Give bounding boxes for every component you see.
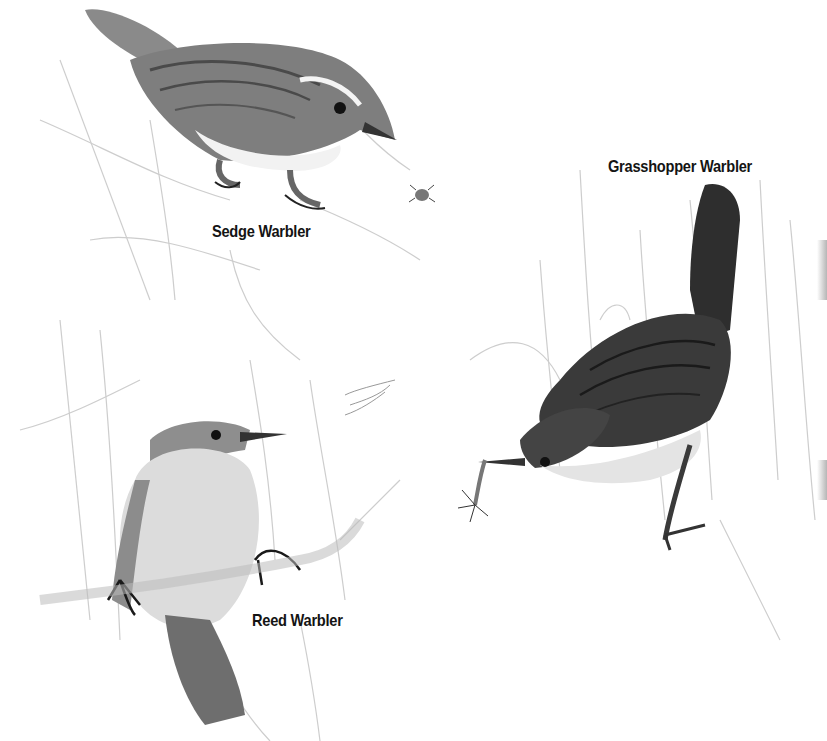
page-edge-shadow (817, 240, 827, 300)
grasshopper-warbler-label: Grasshopper Warbler (608, 157, 752, 177)
sedge-warbler-illustration (85, 9, 435, 208)
warbler-illustration-plate (0, 0, 827, 741)
reed-warbler-label: Reed Warbler (252, 611, 343, 631)
reed-warbler-illustration (40, 380, 395, 725)
sedge-warbler-label: Sedge Warbler (212, 222, 310, 242)
page-edge-shadow (817, 460, 827, 500)
grasshopper-warbler-illustration (458, 184, 740, 550)
